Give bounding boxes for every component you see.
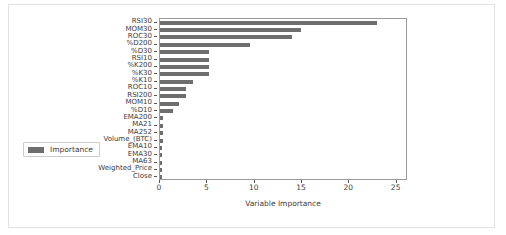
x-axis-tick-label: 10 <box>249 184 259 192</box>
y-axis-tick-mark <box>154 147 157 148</box>
x-axis-tick-label: 15 <box>296 184 306 192</box>
bar <box>160 175 162 179</box>
y-axis-tick-mark <box>154 110 157 111</box>
y-axis-tick-mark <box>154 88 157 89</box>
y-axis-tick-mark <box>154 66 157 67</box>
bar <box>160 153 162 157</box>
bar <box>160 43 250 47</box>
y-axis-tick-mark <box>154 22 157 23</box>
x-axis-title: Variable Importance <box>159 199 407 208</box>
bar <box>160 102 179 106</box>
y-axis-tick-mark <box>154 51 157 52</box>
bar <box>160 161 162 165</box>
x-axis-tick-label: 25 <box>391 184 401 192</box>
bar <box>160 80 193 84</box>
chart-legend: Importance <box>23 142 100 157</box>
bar <box>160 50 209 54</box>
y-axis-tick-mark <box>154 44 157 45</box>
y-axis-tick-mark <box>154 81 157 82</box>
y-axis-tick-mark <box>154 59 157 60</box>
bar <box>160 28 301 32</box>
bar <box>160 58 209 62</box>
y-axis-tick-mark <box>154 154 157 155</box>
y-axis-tick-mark <box>154 132 157 133</box>
bar <box>160 72 209 76</box>
chart-plot-area: RSI30MOM30ROC30%D200%D30RSI10%K200%K30%K… <box>9 5 496 229</box>
y-axis-tick-mark <box>154 36 157 37</box>
bar <box>160 109 173 113</box>
y-axis-tick-label: Close <box>133 173 152 180</box>
bar <box>160 116 163 120</box>
x-axis-tick-label: 0 <box>157 184 162 192</box>
y-axis-tick-mark <box>154 125 157 126</box>
bar <box>160 139 163 143</box>
y-axis-tick-mark <box>154 117 157 118</box>
y-axis-tick-mark <box>154 169 157 170</box>
y-axis-tick-mark <box>154 176 157 177</box>
x-axis-tick-label: 20 <box>344 184 354 192</box>
bar <box>160 87 186 91</box>
y-axis-tick-mark <box>154 140 157 141</box>
bar <box>160 168 162 172</box>
y-axis-tick-mark <box>154 103 157 104</box>
bar <box>160 124 163 128</box>
bar <box>160 65 209 69</box>
bar <box>160 21 377 25</box>
x-axis-tick-label: 5 <box>204 184 209 192</box>
chart-axes <box>159 18 407 180</box>
bar <box>160 146 162 150</box>
legend-swatch-importance <box>28 147 44 153</box>
y-axis-tick-mark <box>154 162 157 163</box>
y-axis-tick-mark <box>154 73 157 74</box>
bar <box>160 35 292 39</box>
y-axis-tick-mark <box>154 29 157 30</box>
legend-label-importance: Importance <box>50 145 93 154</box>
y-axis-tick-mark <box>154 95 157 96</box>
bar <box>160 94 186 98</box>
figure-card: RSI30MOM30ROC30%D200%D30RSI10%K200%K30%K… <box>8 4 495 228</box>
bar <box>160 131 163 135</box>
